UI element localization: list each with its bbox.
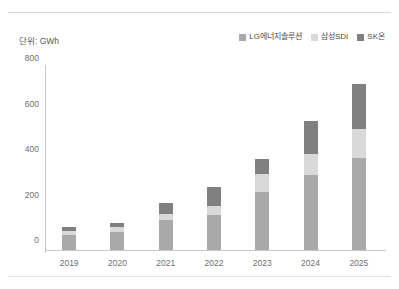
bar-group[interactable]: 2025 [337, 68, 381, 250]
bar-segment[interactable] [255, 174, 269, 192]
stacked-bar[interactable] [110, 223, 124, 250]
bar-segment[interactable] [159, 214, 173, 221]
bar-segment[interactable] [207, 215, 221, 250]
stacked-bar[interactable] [352, 84, 366, 250]
x-axis-tick-label: 2021 [156, 258, 175, 268]
clipped-header-ghost-text: ⋯ ⋯ ⋯⋯ ⋯⋯ ⋯ [175, 0, 254, 4]
x-axis-tick-label: 2022 [205, 258, 224, 268]
bar-segment[interactable] [255, 192, 269, 250]
bar-segment[interactable] [304, 154, 318, 174]
legend-label: SK온 [367, 33, 385, 41]
legend-swatch-icon [357, 34, 364, 41]
x-axis-tick-label: 2024 [301, 258, 320, 268]
bar-group[interactable]: 2022 [192, 68, 236, 250]
bar-segment[interactable] [304, 121, 318, 154]
bar-segment[interactable] [159, 220, 173, 250]
bar-segment[interactable] [207, 206, 221, 215]
legend-swatch-icon [239, 34, 246, 41]
chart-legend: LG에너지솔루션삼성SDISK온 [239, 33, 385, 41]
bar-segment[interactable] [352, 129, 366, 157]
stacked-bar[interactable] [159, 203, 173, 250]
bar-group[interactable]: 2023 [240, 68, 284, 250]
x-axis-tick-label: 2025 [349, 258, 368, 268]
bar-segment[interactable] [62, 235, 76, 250]
y-axis-tick-label: 0 [34, 235, 39, 245]
legend-item[interactable]: 삼성SDI [311, 33, 348, 41]
y-axis-tick-label: 600 [25, 99, 39, 109]
legend-item[interactable]: LG에너지솔루션 [239, 33, 302, 41]
footer-divider [8, 276, 391, 277]
bar-group[interactable]: 2019 [47, 68, 91, 250]
bar-group[interactable]: 2024 [289, 68, 333, 250]
stacked-bar[interactable] [207, 187, 221, 250]
y-axis-tick-label: 200 [25, 190, 39, 200]
y-axis-tick-label: 800 [25, 53, 39, 63]
bar-group[interactable]: 2021 [144, 68, 188, 250]
legend-swatch-icon [311, 34, 318, 41]
plot-area: 0200400600800201920202021202220232024202… [45, 68, 383, 250]
x-axis-tick-label: 2023 [253, 258, 272, 268]
bar-segment[interactable] [255, 159, 269, 174]
bar-segment[interactable] [352, 84, 366, 130]
legend-label: LG에너지솔루션 [249, 33, 302, 41]
bar-segment[interactable] [352, 158, 366, 250]
bar-segment[interactable] [110, 232, 124, 250]
legend-item[interactable]: SK온 [357, 33, 385, 41]
legend-label: 삼성SDI [321, 33, 348, 41]
stacked-bar[interactable] [62, 227, 76, 250]
x-axis-tick-label: 2020 [108, 258, 127, 268]
x-axis-tick-label: 2019 [60, 258, 79, 268]
bar-segment[interactable] [159, 203, 173, 213]
y-axis-tick-label: 400 [25, 144, 39, 154]
clipped-header-strip: ⋯ ⋯ ⋯⋯ ⋯⋯ ⋯ [0, 0, 399, 9]
chart-card: 단위: GWh LG에너지솔루션삼성SDISK온 020040060080020… [0, 13, 399, 277]
stacked-bar[interactable] [255, 159, 269, 250]
bar-segment[interactable] [207, 187, 221, 205]
bar-segment[interactable] [304, 175, 318, 250]
stacked-bar[interactable] [304, 121, 318, 250]
unit-label: 단위: GWh [19, 34, 59, 46]
bar-group[interactable]: 2020 [95, 68, 139, 250]
x-axis-line [45, 250, 386, 251]
